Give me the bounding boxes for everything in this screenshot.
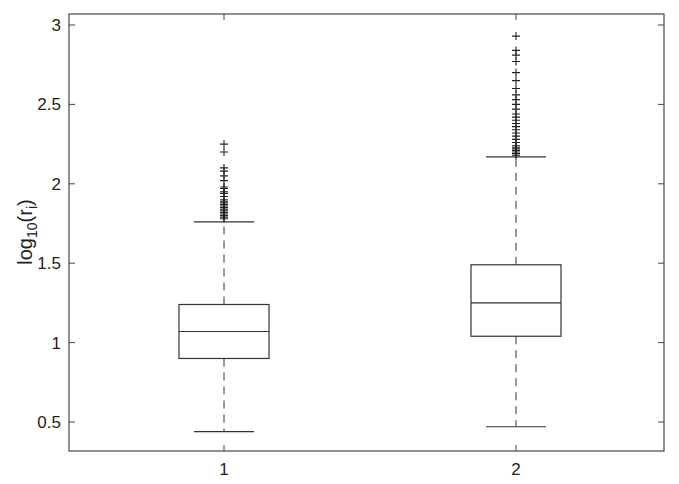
- outlier-marker: [220, 140, 228, 148]
- y-tick-label: 1: [52, 334, 61, 353]
- x-axis-ticks: 12: [219, 14, 520, 479]
- iqr-box: [471, 265, 561, 336]
- box-group-1: [179, 140, 269, 431]
- outlier-marker: [512, 46, 520, 54]
- y-tick-label: 0.5: [37, 413, 61, 432]
- axes-frame: [69, 14, 664, 451]
- outlier-marker: [512, 85, 520, 93]
- y-axis-ticks: 0.511.522.53: [37, 16, 664, 432]
- outlier-marker: [512, 77, 520, 85]
- outlier-marker: [220, 148, 228, 156]
- outlier-marker: [512, 32, 520, 40]
- outlier-marker: [512, 69, 520, 77]
- y-axis-label: log10(ri): [14, 199, 40, 264]
- y-tick-label: 1.5: [37, 254, 61, 273]
- box-group-2: [471, 32, 561, 427]
- y-tick-label: 3: [52, 16, 61, 35]
- y-tick-label: 2.5: [37, 95, 61, 114]
- y-tick-label: 2: [52, 175, 61, 194]
- boxplot-chart: 0.511.522.53 12 log10(ri): [0, 0, 679, 484]
- plot-area: [179, 32, 561, 431]
- x-tick-label: 1: [219, 460, 228, 479]
- x-tick-label: 2: [511, 460, 520, 479]
